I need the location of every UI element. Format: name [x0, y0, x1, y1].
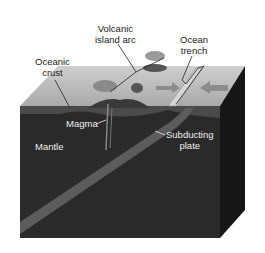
- label-volcanic-island-arc: Volcanic island arc: [95, 23, 136, 45]
- label-line: crust: [35, 67, 70, 78]
- label-line: Oceanic: [35, 56, 70, 67]
- label-subducting-plate: Subducting plate: [166, 129, 214, 151]
- volcanic-island: [143, 64, 167, 72]
- volcano-smoke: [93, 80, 117, 92]
- block-front-face: [20, 106, 220, 238]
- label-line: Subducting: [166, 129, 214, 140]
- label-magma: Magma: [66, 118, 98, 129]
- label-line: island arc: [95, 34, 136, 45]
- label-line: Volcanic: [95, 23, 136, 34]
- label-oceanic-crust: Oceanic crust: [35, 56, 70, 78]
- label-ocean-trench: Ocean trench: [180, 34, 208, 56]
- label-line: Ocean: [180, 34, 208, 45]
- label-line: plate: [166, 140, 214, 151]
- label-mantle: Mantle: [35, 141, 64, 152]
- label-line: trench: [180, 45, 208, 56]
- volcanic-island: [131, 83, 143, 93]
- volcano-smoke: [145, 51, 165, 61]
